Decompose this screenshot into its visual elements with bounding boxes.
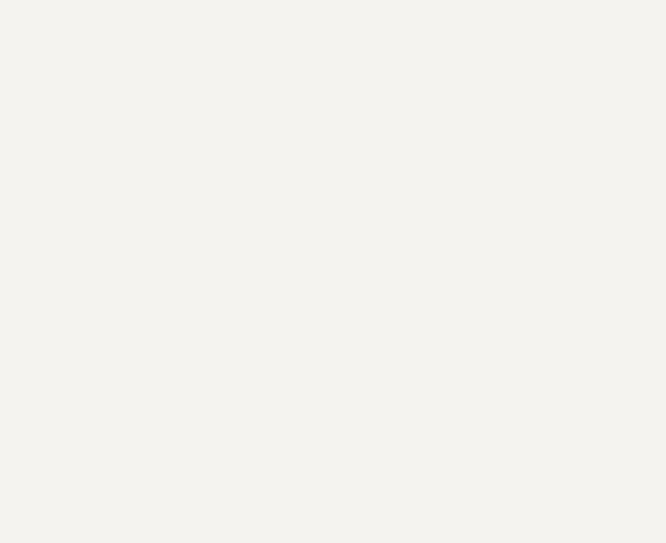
diagram-connectors xyxy=(0,0,666,543)
